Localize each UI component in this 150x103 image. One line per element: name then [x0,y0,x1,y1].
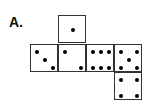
pip [79,66,83,70]
pip [107,50,111,54]
die-face-top [58,15,86,43]
pip [99,50,103,54]
pip [63,50,67,54]
pip [71,28,75,32]
pip [119,50,123,54]
pip [51,66,55,70]
die-face-bottom [114,72,142,100]
pip [43,58,47,62]
pip [99,66,103,70]
pip [35,50,39,54]
die-face-right [86,44,114,72]
pip [119,78,123,82]
pip [135,94,139,98]
pip [127,58,131,62]
pip [135,78,139,82]
pip [119,66,123,70]
pip [107,66,111,70]
pip [135,50,139,54]
figure-label: A. [9,14,23,30]
die-face-center [58,44,86,72]
die-face-left [30,44,58,72]
pip [135,66,139,70]
pip [119,94,123,98]
pip [91,50,95,54]
pip [91,66,95,70]
die-face-far-right [114,44,142,72]
